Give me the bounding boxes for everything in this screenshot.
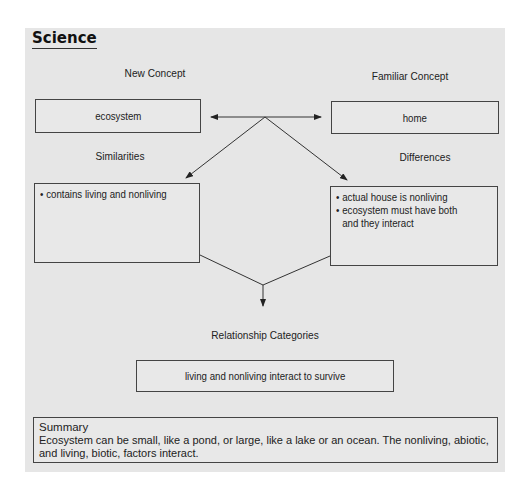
differences-label: Differences [381, 151, 469, 163]
similarities-list: contains living and nonliving [35, 184, 199, 201]
familiar-concept-box: home [331, 101, 499, 134]
relationship-value: living and nonliving interact to survive [185, 370, 345, 382]
differences-list: actual house is nonliving ecosystem must… [331, 187, 497, 230]
differences-box: actual house is nonliving ecosystem must… [330, 186, 498, 266]
relationship-label: Relationship Categories [199, 329, 331, 341]
new-concept-box: ecosystem [35, 99, 201, 133]
summary-title: Summary [39, 421, 492, 434]
familiar-concept-label: Familiar Concept [353, 70, 467, 82]
familiar-concept-value: home [403, 112, 427, 124]
list-item: actual house is nonliving [336, 191, 474, 204]
similarities-label: Similarities [76, 150, 164, 162]
new-concept-value: ecosystem [95, 110, 141, 122]
list-item: ecosystem must have both and they intera… [336, 204, 474, 230]
summary-text: Ecosystem can be small, like a pond, or … [39, 434, 492, 460]
new-concept-label: New Concept [102, 67, 208, 79]
relationship-box: living and nonliving interact to survive [136, 360, 394, 392]
summary-box: Summary Ecosystem can be small, like a p… [33, 417, 498, 463]
list-item: contains living and nonliving [40, 188, 178, 201]
similarities-box: contains living and nonliving [34, 183, 200, 263]
